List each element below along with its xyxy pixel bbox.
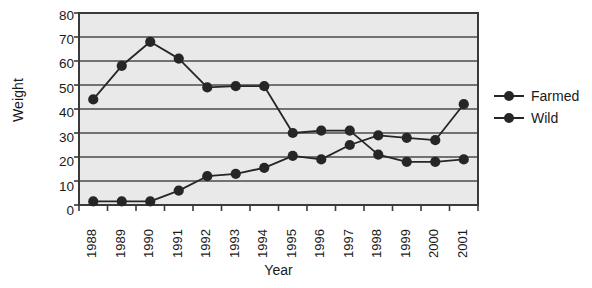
legend-item-wild: Wild: [494, 107, 590, 129]
data-point-farmed-1988: [88, 94, 98, 104]
x-tick-1999: 1999: [399, 215, 415, 258]
data-point-farmed-1997: [345, 126, 355, 136]
y-tick-30: 30: [40, 131, 74, 145]
data-point-wild-1994: [259, 163, 269, 173]
data-point-farmed-1993: [231, 81, 241, 91]
data-point-wild-1993: [231, 169, 241, 179]
data-point-wild-1988: [88, 196, 98, 206]
x-tick-1990: 1990: [142, 215, 158, 258]
data-point-farmed-2001: [459, 154, 469, 164]
y-tick-50: 50: [40, 82, 74, 96]
y-tick-10: 10: [40, 180, 74, 194]
x-axis-title: Year: [79, 262, 478, 278]
data-point-wild-2000: [430, 135, 440, 145]
data-point-farmed-1996: [316, 126, 326, 136]
x-tick-1995: 1995: [285, 215, 301, 258]
y-tick-60: 60: [40, 57, 74, 71]
data-point-wild-1999: [402, 133, 412, 143]
legend-label-farmed: Farmed: [524, 88, 579, 104]
x-tick-1997: 1997: [342, 215, 358, 258]
y-axis-title: Weight: [10, 60, 26, 140]
x-tick-1988: 1988: [85, 215, 101, 258]
data-point-farmed-1999: [402, 157, 412, 167]
y-tick-70: 70: [40, 33, 74, 47]
legend-label-wild: Wild: [524, 110, 558, 126]
x-tick-2000: 2000: [427, 215, 443, 258]
legend-marker-icon: [494, 112, 524, 124]
data-point-farmed-1991: [174, 54, 184, 64]
data-point-wild-1990: [145, 196, 155, 206]
data-point-wild-1995: [288, 151, 298, 161]
chart-legend: Farmed Wild: [494, 85, 590, 129]
data-point-wild-1998: [373, 130, 383, 140]
data-point-farmed-1990: [145, 37, 155, 47]
data-point-wild-1989: [117, 196, 127, 206]
x-tick-1989: 1989: [114, 215, 130, 258]
data-point-farmed-1995: [288, 128, 298, 138]
x-tick-1992: 1992: [199, 215, 215, 258]
data-point-wild-1992: [202, 171, 212, 181]
x-tick-1994: 1994: [256, 215, 272, 258]
x-tick-1993: 1993: [228, 215, 244, 258]
data-point-wild-2001: [459, 99, 469, 109]
y-tick-20: 20: [40, 155, 74, 169]
data-point-farmed-2000: [430, 157, 440, 167]
data-point-wild-1997: [345, 140, 355, 150]
data-point-farmed-1989: [117, 61, 127, 71]
y-tick-80: 80: [40, 9, 74, 23]
legend-item-farmed: Farmed: [494, 85, 590, 107]
data-point-farmed-1992: [202, 82, 212, 92]
line-chart: Weight 80 70 60 50 40 30 20 10 0 1988 19…: [0, 0, 592, 288]
x-tick-1991: 1991: [171, 215, 187, 258]
data-point-farmed-1994: [259, 81, 269, 91]
x-axis-tick-labels: 1988 1989 1990 1991 1992 1993 1994 1995 …: [0, 210, 592, 258]
x-tick-1998: 1998: [370, 215, 386, 258]
legend-marker-icon: [494, 90, 524, 102]
data-point-wild-1996: [316, 154, 326, 164]
data-point-wild-1991: [174, 186, 184, 196]
x-tick-2001: 2001: [456, 215, 472, 258]
data-point-farmed-1998: [373, 150, 383, 160]
x-tick-1996: 1996: [313, 215, 329, 258]
y-tick-40: 40: [40, 106, 74, 120]
y-axis-tick-labels: 80 70 60 50 40 30 20 10 0: [38, 0, 74, 220]
